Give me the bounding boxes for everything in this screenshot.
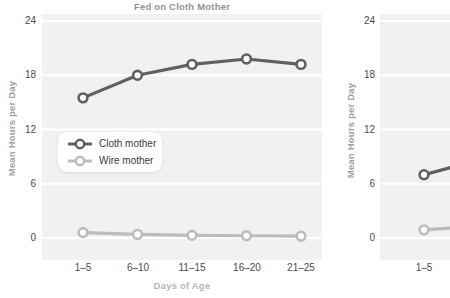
left-y-tick: 24 — [4, 14, 36, 28]
right-y-tick: 24 — [343, 14, 375, 28]
legend-item-wire: Wire mother — [67, 153, 162, 168]
data-point-marker — [420, 225, 429, 234]
data-point-marker — [133, 71, 142, 80]
right-y-tick: 12 — [343, 123, 375, 137]
legend: Cloth mother Wire mother — [58, 132, 162, 172]
legend-item-cloth: Cloth mother — [67, 136, 162, 151]
data-point-marker — [79, 93, 88, 102]
left-x-tick: 6–10 — [116, 262, 160, 274]
data-point-marker — [242, 55, 251, 64]
left-x-tick: 21–25 — [279, 262, 323, 274]
data-point-marker — [242, 231, 251, 240]
data-point-marker — [79, 228, 88, 237]
left-y-tick: 12 — [4, 123, 36, 137]
right-y-tick: 0 — [343, 231, 375, 245]
right-y-tick: 6 — [343, 177, 375, 191]
wire-line-marker-icon — [67, 155, 93, 167]
data-point-marker — [297, 60, 306, 69]
right-plot-area — [380, 14, 450, 260]
data-point-marker — [297, 232, 306, 241]
harlow-attachment-figure: Fed on Cloth Mother Mean Hours per Day 2… — [0, 0, 450, 298]
legend-label: Cloth mother — [99, 138, 156, 149]
right-y-tick: 18 — [343, 68, 375, 82]
cloth-line-marker-icon — [67, 138, 93, 150]
data-point-marker — [133, 230, 142, 239]
left-x-tick: 1–5 — [61, 262, 105, 274]
plot-background — [380, 14, 450, 260]
left-y-tick: 6 — [4, 177, 36, 191]
legend-label: Wire mother — [99, 155, 153, 166]
left-x-tick: 16–20 — [225, 262, 269, 274]
left-chart-title: Fed on Cloth Mother — [42, 1, 322, 14]
right-x-tick: 1–5 — [402, 262, 446, 274]
x-axis-title: Days of Age — [42, 280, 322, 293]
left-y-tick: 18 — [4, 68, 36, 82]
left-y-tick: 0 — [4, 231, 36, 245]
data-point-marker — [188, 60, 197, 69]
data-point-marker — [420, 170, 429, 179]
left-x-tick: 11–15 — [170, 262, 214, 274]
data-point-marker — [188, 231, 197, 240]
